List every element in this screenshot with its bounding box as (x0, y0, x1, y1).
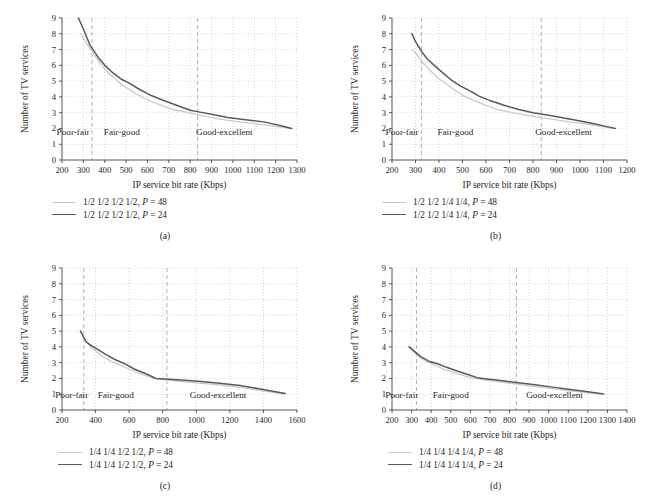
legend-line-icon (382, 214, 406, 215)
legend-item: 1/2 1/2 1/2 1/2, P = 24 (52, 209, 167, 222)
series-line-p48 (409, 347, 601, 394)
x-tick-label: 200 (386, 165, 399, 175)
legend-line-icon (58, 452, 82, 453)
y-tick-label: 0 (382, 405, 386, 415)
region-label-2: Fair-good (433, 390, 469, 400)
x-tick-label: 1000 (571, 165, 588, 175)
x-tick-label: 800 (527, 165, 540, 175)
legend-item: 1/4 1/4 1/2 1/2, P = 24 (58, 459, 173, 472)
figure-grid: 0123456789200300400500600700800900100011… (0, 0, 661, 500)
y-tick-label: 7 (382, 45, 387, 55)
region-label-1: Poor-fair (385, 390, 418, 400)
x-tick-label: 1000 (224, 165, 241, 175)
y-tick-label: 2 (52, 123, 56, 133)
region-label-3: Good-excellent (535, 127, 592, 137)
x-tick-label: 500 (120, 165, 133, 175)
region-label-2: Fair-good (98, 390, 134, 400)
y-tick-label: 9 (382, 13, 386, 23)
y-tick-label: 5 (52, 76, 56, 86)
x-tick-label: 200 (56, 415, 69, 425)
y-tick-label: 9 (52, 263, 56, 273)
y-axis-title: Number of TV services (20, 295, 30, 383)
y-axis-title: Number of TV services (20, 45, 30, 133)
x-tick-label: 600 (480, 165, 493, 175)
x-tick-label: 300 (409, 165, 422, 175)
x-tick-label: 1100 (246, 165, 263, 175)
x-tick-label: 700 (503, 165, 516, 175)
y-axis-title: Number of TV services (350, 295, 360, 383)
y-tick-label: 6 (52, 310, 57, 320)
legend-label: 1/4 1/4 1/2 1/2, P = 24 (89, 459, 173, 472)
legend-c: 1/4 1/4 1/2 1/2, P = 481/4 1/4 1/2 1/2, … (58, 446, 173, 471)
y-tick-label: 3 (382, 358, 386, 368)
y-tick-label: 8 (52, 29, 56, 39)
x-tick-label: 600 (123, 415, 136, 425)
x-tick-label: 700 (483, 415, 496, 425)
x-tick-label: 500 (444, 415, 457, 425)
x-tick-label: 200 (386, 415, 399, 425)
series-line-p48 (412, 50, 612, 129)
panel-caption-a: (a) (0, 230, 330, 241)
region-label-1: Poor-fair (386, 127, 419, 137)
x-tick-label: 600 (141, 165, 154, 175)
series-line-p24 (409, 347, 603, 394)
legend-a: 1/2 1/2 1/2 1/2, P = 481/2 1/2 1/2 1/2, … (52, 196, 167, 221)
y-tick-label: 4 (52, 92, 57, 102)
y-tick-label: 8 (52, 279, 56, 289)
x-axis-title: IP service bit rate (Kbps) (463, 180, 557, 191)
legend-line-icon (52, 214, 76, 215)
y-tick-label: 6 (382, 60, 387, 70)
legend-d: 1/4 1/4 1/4 1/4, P = 481/4 1/4 1/4 1/4, … (388, 446, 503, 471)
region-label-1: Poor-fair (55, 390, 88, 400)
legend-label: 1/2 1/2 1/4 1/4, P = 48 (413, 196, 497, 209)
y-tick-label: 0 (52, 155, 56, 165)
legend-item: 1/2 1/2 1/4 1/4, P = 48 (382, 196, 497, 209)
region-label-3: Good-excellent (196, 127, 253, 137)
legend-label: 1/2 1/2 1/2 1/2, P = 24 (83, 209, 167, 222)
y-tick-label: 5 (52, 326, 56, 336)
legend-line-icon (382, 202, 406, 203)
y-tick-label: 6 (382, 310, 387, 320)
legend-line-icon (58, 464, 82, 465)
legend-item: 1/4 1/4 1/4 1/4, P = 24 (388, 459, 503, 472)
y-tick-label: 7 (52, 295, 57, 305)
legend-line-icon (388, 452, 412, 453)
x-tick-label: 1100 (595, 165, 612, 175)
plot-area-a: 0123456789200300400500600700800900100011… (18, 10, 314, 206)
series-line-p24 (80, 331, 285, 393)
x-tick-label: 800 (156, 415, 169, 425)
legend-line-icon (388, 464, 412, 465)
y-tick-label: 1 (52, 139, 56, 149)
legend-label: 1/4 1/4 1/2 1/2, P = 48 (89, 446, 173, 459)
y-tick-label: 0 (382, 155, 386, 165)
x-tick-label: 500 (456, 165, 469, 175)
x-tick-label: 300 (77, 165, 90, 175)
panel-c: 01234567892004006008001000120014001600Po… (0, 250, 330, 500)
plot-area-b: 0123456789200300400500600700800900100011… (348, 10, 644, 206)
region-label-2: Fair-good (104, 127, 140, 137)
y-tick-label: 9 (52, 13, 56, 23)
y-tick-label: 3 (52, 358, 56, 368)
y-tick-label: 1 (382, 139, 386, 149)
x-tick-label: 1200 (267, 165, 284, 175)
legend-label: 1/4 1/4 1/4 1/4, P = 24 (419, 459, 503, 472)
x-tick-label: 1000 (540, 415, 557, 425)
chart-a: 0123456789200300400500600700800900100011… (18, 10, 314, 206)
x-tick-label: 1300 (599, 415, 616, 425)
y-tick-label: 7 (52, 45, 57, 55)
y-tick-label: 0 (52, 405, 56, 415)
x-tick-label: 700 (162, 165, 175, 175)
x-tick-label: 400 (89, 415, 102, 425)
y-tick-label: 3 (382, 108, 386, 118)
panel-caption-c: (c) (0, 480, 330, 491)
legend-label: 1/2 1/2 1/4 1/4, P = 24 (413, 209, 497, 222)
y-tick-label: 2 (382, 373, 386, 383)
legend-item: 1/4 1/4 1/2 1/2, P = 48 (58, 446, 173, 459)
x-tick-label: 1200 (579, 415, 596, 425)
x-tick-label: 400 (433, 165, 446, 175)
y-tick-label: 6 (52, 60, 57, 70)
chart-c: 01234567892004006008001000120014001600Po… (18, 260, 314, 456)
plot-area-c: 01234567892004006008001000120014001600Po… (18, 260, 314, 456)
legend-item: 1/2 1/2 1/2 1/2, P = 48 (52, 196, 167, 209)
x-tick-label: 900 (550, 165, 563, 175)
